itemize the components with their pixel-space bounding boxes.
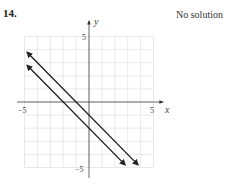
- coordinate-plane: −5 5 5 −5 x y: [0, 0, 233, 187]
- plotted-lines: [27, 52, 138, 165]
- x-axis-label: x: [164, 104, 170, 115]
- y-axis-label: y: [93, 16, 99, 27]
- y-tick-max: 5: [82, 33, 86, 42]
- plotted-line-1: [27, 52, 138, 165]
- y-tick-min: −5: [75, 165, 84, 174]
- x-tick-max: 5: [150, 106, 154, 115]
- x-tick-min: −5: [18, 106, 27, 115]
